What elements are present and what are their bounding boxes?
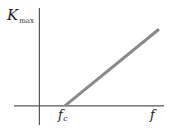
y-axis-label: Kmax [6,6,34,25]
chart: Kmax fc f [0,0,170,133]
series-layer [65,29,159,106]
x-tick-label-fc: fc [57,107,68,123]
x-axis-label: f [149,107,157,122]
y-axis-label-subscript: max [19,17,34,25]
series-line-0 [65,29,159,106]
x-tick-label-subscript: c [63,114,68,123]
